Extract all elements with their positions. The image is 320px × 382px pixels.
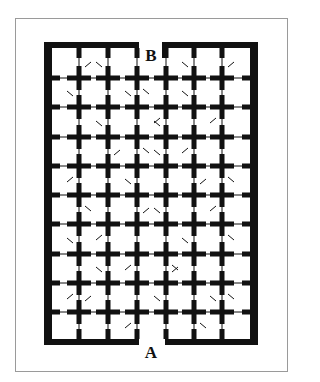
- pillar-cross: [77, 212, 82, 236]
- wall-stub-left: [52, 164, 60, 169]
- door-diagonal: [85, 296, 91, 301]
- door-diagonal: [228, 62, 234, 67]
- pillar-cross: [192, 95, 197, 119]
- pillar-cross: [164, 212, 169, 236]
- pillar-cross: [106, 242, 111, 266]
- pillar-cross: [164, 271, 169, 295]
- wall-stub-top: [164, 48, 169, 58]
- pillar-cross: [164, 154, 169, 178]
- pillar-cross: [164, 183, 169, 207]
- door-diagonal: [154, 150, 160, 155]
- pillar-cross: [192, 212, 197, 236]
- door-diagonal: [85, 62, 91, 67]
- pillar-cross: [164, 66, 169, 90]
- door-diagonal: [143, 89, 149, 94]
- left-wall: [44, 42, 52, 345]
- pillar-cross: [135, 242, 140, 266]
- door-diagonal: [154, 296, 160, 301]
- pillar-cross: [77, 154, 82, 178]
- door-diagonal: [85, 206, 91, 211]
- wall-stub-top: [77, 48, 82, 58]
- pillar-cross: [106, 271, 111, 295]
- door-diagonal: [228, 294, 234, 299]
- pillar-cross: [106, 212, 111, 236]
- wall-stub-right: [242, 135, 250, 140]
- door-diagonal: [125, 179, 131, 184]
- pillar-cross: [192, 125, 197, 149]
- wall-stub-right: [242, 222, 250, 227]
- wall-stub-left: [52, 310, 60, 315]
- door-diagonal: [182, 148, 188, 153]
- door-diagonal: [125, 265, 131, 270]
- exit-label-b: B: [145, 47, 156, 64]
- wall-stub-top: [192, 48, 197, 58]
- wall-stub-left: [52, 281, 60, 286]
- wall-stub-left: [52, 222, 60, 227]
- pillar-cross: [164, 125, 169, 149]
- wall-stub-right: [242, 193, 250, 198]
- pillar-cross: [220, 125, 225, 149]
- pillar-cross: [164, 242, 169, 266]
- pillar-cross: [106, 125, 111, 149]
- pillar-cross: [192, 183, 197, 207]
- pillar-cross: [106, 300, 111, 324]
- door-diagonal: [67, 294, 73, 299]
- door-diagonal: [67, 91, 73, 96]
- pillar-cross: [220, 183, 225, 207]
- wall-stub-left: [52, 76, 60, 81]
- wall-stub-right: [242, 105, 250, 110]
- pillar-cross: [135, 183, 140, 207]
- bottom-wall-left: [44, 339, 139, 345]
- wall-stub-left: [52, 252, 60, 257]
- door-diagonal: [228, 177, 234, 182]
- right-wall: [250, 42, 258, 345]
- pillar-cross: [77, 125, 82, 149]
- pillar-cross: [220, 154, 225, 178]
- pillar-cross: [164, 300, 169, 324]
- door-diagonal: [96, 121, 102, 126]
- wall-stub-top: [135, 48, 140, 58]
- pillar-cross: [77, 183, 82, 207]
- door-diagonal: [154, 121, 160, 126]
- wall-stub-bottom: [192, 329, 197, 339]
- top-wall-right: [162, 42, 258, 48]
- door-diagonal: [228, 235, 234, 240]
- pillar-cross: [135, 300, 140, 324]
- wall-stub-bottom: [135, 329, 140, 339]
- pillar-cross: [106, 183, 111, 207]
- wall-stub-top: [220, 48, 225, 58]
- wall-stub-left: [52, 105, 60, 110]
- wall-stub-left: [52, 135, 60, 140]
- door-diagonal: [125, 91, 131, 96]
- pillar-cross: [192, 242, 197, 266]
- pillar-cross: [220, 271, 225, 295]
- pillar-cross: [220, 95, 225, 119]
- pillar-cross: [220, 212, 225, 236]
- door-diagonal: [182, 62, 188, 67]
- door-diagonal: [67, 238, 73, 243]
- pillar-cross: [106, 95, 111, 119]
- wall-stub-right: [242, 252, 250, 257]
- pillar-cross: [135, 125, 140, 149]
- door-diagonal: [96, 267, 102, 272]
- wall-stub-right: [242, 281, 250, 286]
- door-diagonal: [210, 118, 216, 123]
- door-diagonal: [125, 323, 131, 328]
- pillar-cross: [192, 66, 197, 90]
- door-diagonal: [67, 177, 73, 182]
- door-diagonal: [200, 179, 206, 184]
- pillar-cross: [77, 95, 82, 119]
- wall-stub-bottom: [77, 329, 82, 339]
- pillar-cross: [135, 212, 140, 236]
- pillar-cross: [192, 154, 197, 178]
- door-diagonal: [200, 323, 206, 328]
- door-diagonal: [210, 296, 216, 301]
- door-diagonal: [96, 62, 102, 67]
- pillar-cross: [77, 300, 82, 324]
- entrance-label-a: A: [145, 344, 157, 361]
- pillar-cross: [220, 66, 225, 90]
- wall-stub-top: [106, 48, 111, 58]
- wall-stub-right: [242, 164, 250, 169]
- pillar-cross: [77, 271, 82, 295]
- pillar-cross: [77, 66, 82, 90]
